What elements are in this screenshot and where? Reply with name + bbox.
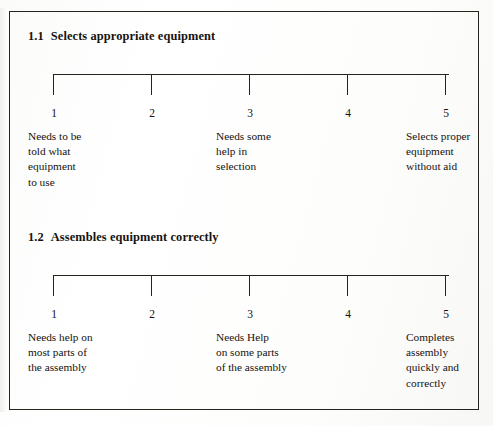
scale-1-title: Selects appropriate equipment: [51, 29, 215, 43]
scale-2-tick-3: [249, 275, 250, 296]
scale-1-tick-5: [445, 74, 446, 95]
scale-1-label-3: 3: [237, 107, 263, 119]
scale-2-number: 1.2: [28, 230, 44, 244]
scale-1-tick-1: [53, 74, 54, 95]
scale-1-number: 1.1: [28, 29, 44, 43]
scale-1-label-2: 2: [139, 107, 165, 119]
form-frame: 1.1Selects appropriate equipment 1 2 3 4…: [9, 11, 479, 410]
scale-2-label-4: 4: [335, 308, 361, 320]
scale-2-anchor-high: Completes assembly quickly and correctly: [406, 330, 493, 391]
scale-2-heading: 1.2Assembles equipment correctly: [28, 230, 219, 245]
scale-1-anchor-low: Needs to be told what equipment to use: [28, 129, 158, 190]
scale-2-tick-4: [347, 275, 348, 296]
scale-1-tick-2: [151, 74, 152, 95]
scale-2-anchor-low: Needs help on most parts of the assembly: [28, 330, 158, 376]
scale-1-anchor-mid: Needs some help in selection: [216, 129, 356, 175]
scale-1-heading: 1.1Selects appropriate equipment: [28, 29, 215, 44]
scale-1-label-4: 4: [335, 107, 361, 119]
scale-2-axis-line: [53, 275, 449, 276]
scale-1-label-5: 5: [433, 107, 459, 119]
scale-2-label-3: 3: [237, 308, 263, 320]
scale-1-label-1: 1: [41, 107, 67, 119]
scale-2-label-1: 1: [41, 308, 67, 320]
scale-2-tick-5: [445, 275, 446, 296]
scale-1-tick-4: [347, 74, 348, 95]
scale-1-anchor-high: Selects proper equipment without aid: [406, 129, 493, 175]
scale-2-label-2: 2: [139, 308, 165, 320]
scale-2-title: Assembles equipment correctly: [51, 230, 219, 244]
scale-2-tick-1: [53, 275, 54, 296]
scale-1-axis-line: [53, 74, 449, 75]
scale-2-label-5: 5: [433, 308, 459, 320]
scale-1-tick-3: [249, 74, 250, 95]
scale-2-anchor-mid: Needs Help on some parts of the assembly: [216, 330, 356, 376]
page-binding-shadow: [0, 8, 9, 412]
scale-2-tick-2: [151, 275, 152, 296]
